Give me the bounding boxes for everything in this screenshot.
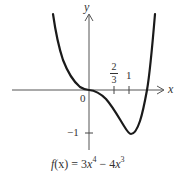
origin-label: 0 xyxy=(80,93,86,104)
tick-label-two-thirds: 2 3 xyxy=(110,62,118,85)
formula-exp2: 3 xyxy=(121,155,125,164)
fraction-denominator: 3 xyxy=(112,74,117,85)
tick-label-one: 1 xyxy=(126,70,132,81)
formula-mid: − 4 xyxy=(96,157,115,171)
fraction-numerator: 2 xyxy=(112,61,117,72)
tick-label-minus-one: −1 xyxy=(67,127,79,138)
formula-arg: (x) = 3 xyxy=(54,157,87,171)
x-axis-label: x xyxy=(168,83,173,95)
y-axis-label: y xyxy=(84,1,89,13)
function-formula: f(x) = 3x4 − 4x3 xyxy=(51,155,125,172)
function-curve xyxy=(53,14,155,134)
